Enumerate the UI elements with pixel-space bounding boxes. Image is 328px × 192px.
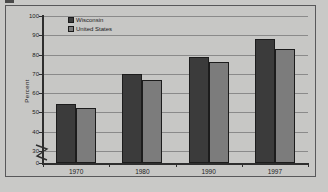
- y-tick: 70: [43, 74, 44, 75]
- bar: [56, 104, 76, 163]
- y-tick-mark: [39, 112, 44, 113]
- y-tick: 90: [43, 35, 44, 36]
- bar: [189, 57, 209, 164]
- legend-label: Wisconsin: [76, 17, 103, 23]
- x-tick-label: 1980: [135, 169, 149, 176]
- y-tick-mark: [39, 35, 44, 36]
- legend-item-united-states: United States: [68, 26, 112, 32]
- x-tick-mark: [109, 163, 110, 167]
- bar: [275, 49, 295, 163]
- y-tick-label: 30: [32, 148, 39, 154]
- x-tick-mark: [308, 163, 309, 167]
- y-tick-label: 50: [32, 109, 39, 115]
- y-tick: 40: [43, 132, 44, 133]
- gridline: [43, 35, 308, 36]
- bar: [142, 80, 162, 163]
- bar: [76, 108, 96, 163]
- y-tick-label: 80: [32, 52, 39, 58]
- x-tick-label: 1990: [201, 169, 215, 176]
- x-tick-mark: [242, 163, 243, 167]
- y-tick: 100: [43, 16, 44, 17]
- y-tick-label: 40: [32, 129, 39, 135]
- plot-area: 030405060708090100 1970198019901997: [43, 16, 308, 163]
- x-tick-mark: [176, 163, 177, 167]
- y-tick-label: 90: [32, 32, 39, 38]
- y-tick-mark: [39, 132, 44, 133]
- bar: [255, 39, 275, 163]
- chart-screenshot: Percent 030405060708090100 1970198019901…: [0, 0, 328, 192]
- scan-artifact-mark: [5, 0, 14, 3]
- x-tick-label: 1970: [69, 169, 83, 176]
- chart-frame: Percent 030405060708090100 1970198019901…: [5, 5, 316, 177]
- bar: [209, 62, 229, 163]
- y-tick: 80: [43, 55, 44, 56]
- x-tick-mark: [43, 163, 44, 167]
- y-tick-mark: [39, 74, 44, 75]
- y-tick-mark: [39, 151, 44, 152]
- y-tick: 60: [43, 93, 44, 94]
- y-tick-label: 0: [36, 160, 39, 166]
- legend-swatch-icon: [68, 17, 74, 23]
- y-tick-label: 100: [29, 13, 39, 19]
- y-tick: 50: [43, 112, 44, 113]
- y-tick-label: 70: [32, 71, 39, 77]
- legend-label: United States: [76, 26, 112, 32]
- y-tick-mark: [39, 55, 44, 56]
- y-tick-mark: [39, 93, 44, 94]
- chart-legend: Wisconsin United States: [68, 17, 112, 35]
- y-tick: 30: [43, 151, 44, 152]
- bar: [122, 74, 142, 163]
- y-tick-label: 60: [32, 90, 39, 96]
- legend-swatch-icon: [68, 26, 74, 32]
- x-tick-label: 1997: [268, 169, 282, 176]
- y-axis-title: Percent: [24, 79, 30, 102]
- legend-item-wisconsin: Wisconsin: [68, 17, 112, 23]
- y-tick-mark: [39, 16, 44, 17]
